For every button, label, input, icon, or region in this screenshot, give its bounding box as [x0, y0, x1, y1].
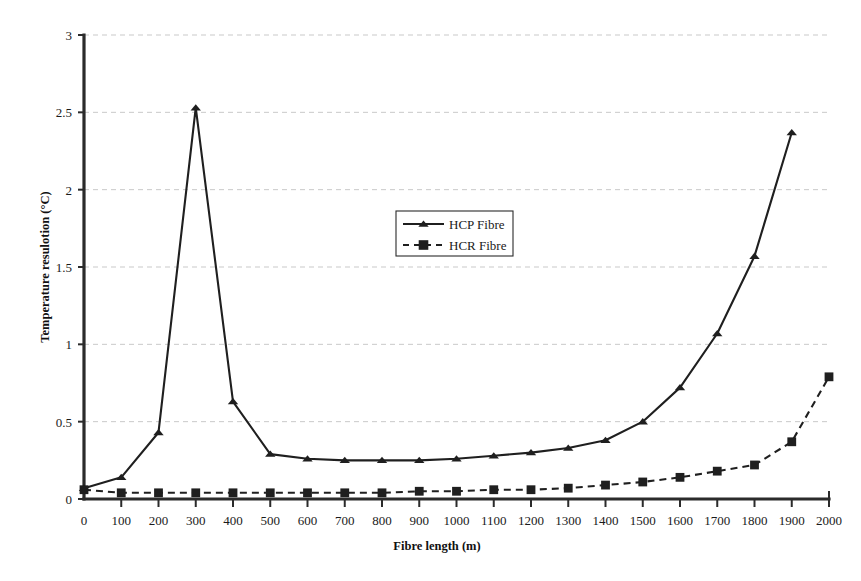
x-tick-label: 100 [112, 513, 132, 528]
x-tick-label: 0 [81, 513, 88, 528]
data-point-marker-square [825, 372, 834, 381]
series-line-hcp [84, 108, 792, 488]
data-point-marker-square [750, 461, 759, 470]
y-tick-label: 0 [66, 492, 73, 507]
data-point-marker-square [564, 484, 573, 493]
x-tick-label: 1900 [779, 513, 805, 528]
legend-label-hcp: HCP Fibre [449, 217, 505, 232]
data-point-marker-triangle [228, 398, 238, 404]
x-tick-label: 1600 [667, 513, 693, 528]
data-point-marker-square [638, 478, 647, 487]
data-point-marker-square [452, 487, 461, 496]
x-tick-label: 800 [372, 513, 392, 528]
temperature-resolution-line-chart: 00.511.522.53 01002003004005006007008009… [0, 0, 861, 581]
data-point-marker-triangle [712, 330, 722, 336]
series-hcr-fibre [80, 372, 834, 497]
data-point-marker-triangle [787, 129, 797, 135]
y-tick-labels: 00.511.522.53 [56, 28, 72, 507]
x-tick-label: 700 [335, 513, 355, 528]
x-tick-label: 1300 [555, 513, 581, 528]
data-point-marker-triangle [675, 384, 685, 390]
chart-container: 00.511.522.53 01002003004005006007008009… [0, 0, 861, 581]
data-point-marker-square [713, 467, 722, 476]
x-tick-label: 400 [223, 513, 243, 528]
x-axis-title: Fibre length (m) [393, 539, 480, 553]
data-point-marker-square [340, 488, 349, 497]
data-point-marker-square [266, 488, 275, 497]
x-tick-label: 300 [186, 513, 206, 528]
series-hcp-fibre [79, 104, 797, 491]
data-point-marker-square [378, 488, 387, 497]
data-point-marker-square [415, 487, 424, 496]
data-point-marker-square [191, 488, 200, 497]
y-tick-label: 1.5 [56, 260, 72, 275]
data-point-marker-square [117, 488, 126, 497]
x-tick-label: 600 [298, 513, 318, 528]
x-tick-label: 1500 [630, 513, 656, 528]
y-tick-label: 3 [66, 28, 73, 43]
data-point-marker-square [601, 481, 610, 490]
x-tick-label: 2000 [816, 513, 842, 528]
data-point-marker-square [154, 488, 163, 497]
y-tick-label: 2 [66, 183, 73, 198]
data-point-marker-square [676, 473, 685, 482]
data-point-marker-triangle [191, 104, 201, 110]
y-axis [78, 35, 85, 499]
legend-label-hcr: HCR Fibre [449, 238, 507, 253]
x-tick-label: 500 [261, 513, 281, 528]
x-tick-labels: 0100200300400500600700800900100011001200… [81, 513, 842, 528]
y-tick-label: 1 [66, 337, 73, 352]
y-axis-title: Temperature resulotion (°C) [38, 191, 52, 342]
data-point-marker-square [303, 488, 312, 497]
data-point-marker-square [229, 488, 238, 497]
x-tick-label: 200 [149, 513, 169, 528]
data-point-marker-square [489, 485, 498, 494]
x-tick-label: 1100 [481, 513, 507, 528]
data-point-marker-square [80, 485, 89, 494]
y-tick-label: 2.5 [56, 105, 72, 120]
x-tick-label: 1200 [518, 513, 544, 528]
data-point-marker-square [419, 240, 429, 250]
x-tick-label: 1800 [742, 513, 768, 528]
data-point-marker-triangle [116, 474, 126, 480]
x-tick-label: 900 [410, 513, 430, 528]
data-point-marker-square [527, 485, 536, 494]
data-point-marker-square [787, 437, 796, 446]
x-tick-label: 1400 [593, 513, 619, 528]
x-tick-label: 1000 [444, 513, 470, 528]
data-point-marker-triangle [153, 429, 163, 435]
y-tick-label: 0.5 [56, 415, 72, 430]
data-point-marker-triangle [749, 253, 759, 259]
legend: HCP FibreHCR Fibre [396, 211, 513, 256]
x-tick-label: 1700 [704, 513, 730, 528]
